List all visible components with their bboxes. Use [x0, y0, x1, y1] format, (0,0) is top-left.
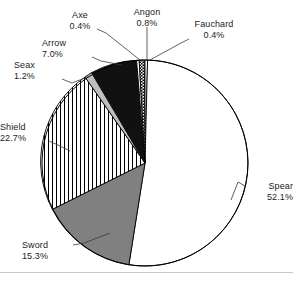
pie-label-arrow-percent: 7.0%	[42, 49, 92, 60]
pie-label-axe-name: Axe	[72, 10, 88, 20]
pie-label-sword: Sword 15.3%	[22, 240, 73, 261]
pie-label-arrow-name: Arrow	[42, 38, 66, 48]
leader-line-fauchard	[150, 39, 189, 60]
pie-label-angon: Angon 0.8%	[122, 7, 172, 28]
pie-label-shield-percent: 22.7%	[0, 133, 49, 144]
pie-label-axe-percent: 0.4%	[59, 21, 101, 32]
pie-label-seax: Seax 1.2%	[14, 60, 62, 81]
pie-label-sword-percent: 15.3%	[22, 251, 73, 262]
figure-separator	[0, 272, 293, 273]
leader-line-axe	[97, 29, 140, 60]
pie-label-seax-name: Seax	[14, 60, 35, 70]
pie-label-axe: Axe 0.4%	[59, 10, 101, 31]
pie-label-arrow: Arrow 7.0%	[42, 38, 92, 59]
pie-label-spear-percent: 52.1%	[247, 192, 293, 203]
pie-slice-spear[interactable]	[129, 60, 248, 266]
pie-label-angon-name: Angon	[134, 7, 161, 17]
pie-label-shield: Shield 22.7%	[0, 122, 49, 143]
pie-label-shield-name: Shield	[0, 122, 26, 132]
pie-label-fauchard-percent: 0.4%	[183, 30, 245, 41]
pie-label-sword-name: Sword	[22, 240, 48, 250]
pie-label-spear-name: Spear	[268, 181, 293, 191]
pie-label-fauchard-name: Fauchard	[195, 19, 234, 29]
pie-label-fauchard: Fauchard 0.4%	[183, 19, 245, 40]
leader-line-arrow	[92, 57, 122, 65]
pie-chart-figure: Axe 0.4% Angon 0.8% Fauchard 0.4% Arrow …	[0, 0, 293, 284]
pie-slices	[41, 60, 248, 266]
pie-label-angon-percent: 0.8%	[122, 18, 172, 29]
pie-label-seax-percent: 1.2%	[14, 71, 62, 82]
pie-label-spear: Spear 52.1%	[247, 181, 293, 202]
